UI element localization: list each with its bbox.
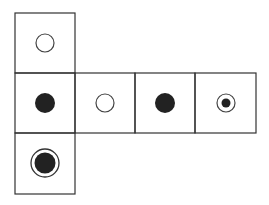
face-front — [75, 73, 135, 133]
face-top — [15, 13, 75, 73]
filled-circle-icon — [155, 93, 175, 113]
dot-in-ring-icon — [217, 94, 235, 112]
cube-net-diagram — [0, 0, 269, 205]
filled-circle-in-ring-icon — [31, 149, 59, 177]
hollow-circle-icon — [96, 94, 114, 112]
filled-circle-icon — [35, 93, 55, 113]
hollow-circle-icon — [36, 34, 54, 52]
